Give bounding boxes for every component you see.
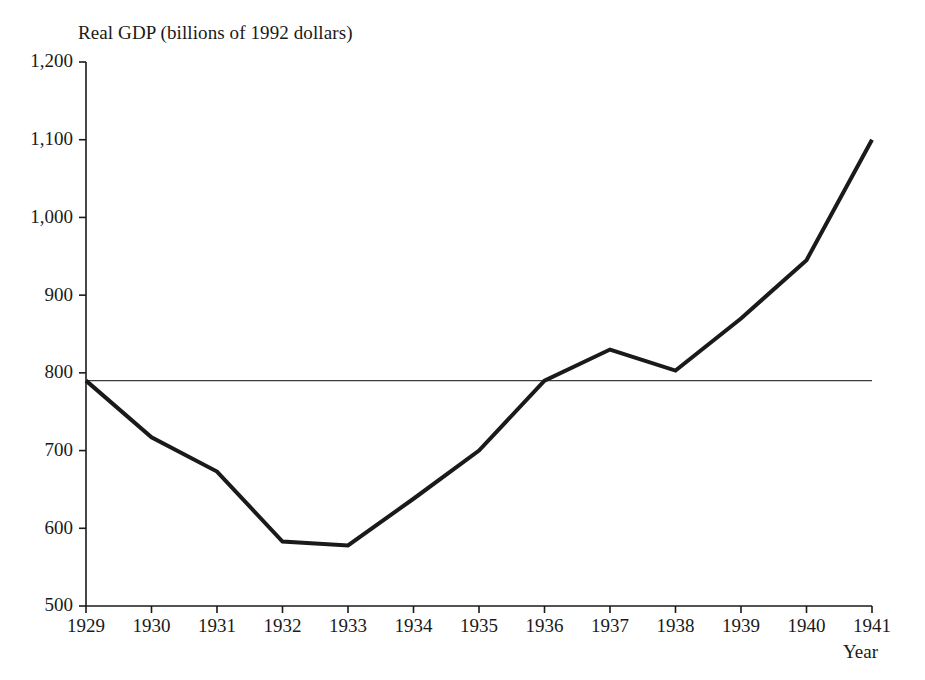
x-axis-tick-label: 1933 bbox=[329, 615, 367, 636]
chart-figure: Real GDP (billions of 1992 dollars) 1,20… bbox=[0, 0, 925, 680]
y-axis-tick-label: 600 bbox=[45, 517, 74, 538]
x-axis-tick-label: 1938 bbox=[657, 615, 695, 636]
y-axis-tick-label: 1,200 bbox=[30, 50, 73, 71]
x-axis-tick-label: 1931 bbox=[198, 615, 236, 636]
y-axis-tick-label: 900 bbox=[45, 284, 74, 305]
line-chart-plot: 1,2001,1001,000900800700600500 192919301… bbox=[0, 0, 925, 680]
y-axis-tick-label: 500 bbox=[45, 594, 74, 615]
x-axis-tick-label: 1929 bbox=[67, 615, 105, 636]
x-axis-tick-label: 1937 bbox=[591, 615, 629, 636]
y-axis-tick-group: 1,2001,1001,000900800700600500 bbox=[30, 50, 86, 615]
x-axis-label: Year bbox=[843, 641, 878, 663]
x-axis-tick-label: 1935 bbox=[460, 615, 498, 636]
x-axis-tick-label: 1940 bbox=[788, 615, 826, 636]
real-gdp-data-line bbox=[86, 140, 872, 546]
y-axis-tick-label: 800 bbox=[45, 361, 74, 382]
x-axis-tick-label: 1939 bbox=[722, 615, 760, 636]
x-axis-tick-label: 1930 bbox=[133, 615, 171, 636]
x-axis-tick-label: 1934 bbox=[395, 615, 434, 636]
y-axis-tick-label: 1,100 bbox=[30, 128, 73, 149]
x-axis-tick-label: 1932 bbox=[264, 615, 302, 636]
y-axis-tick-label: 700 bbox=[45, 439, 74, 460]
y-axis-tick-label: 1,000 bbox=[30, 206, 73, 227]
x-axis-tick-label: 1941 bbox=[853, 615, 891, 636]
x-axis-tick-group: 1929193019311932193319341935193619371938… bbox=[67, 606, 891, 636]
x-axis-tick-label: 1936 bbox=[526, 615, 564, 636]
